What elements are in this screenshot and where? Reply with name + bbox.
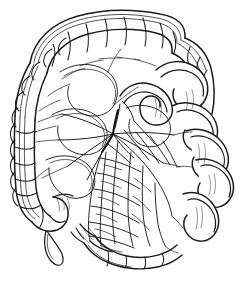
anatomy-illustration [0, 0, 242, 285]
anatomy-figure: Large intestine with mesentery and small… [0, 0, 242, 285]
